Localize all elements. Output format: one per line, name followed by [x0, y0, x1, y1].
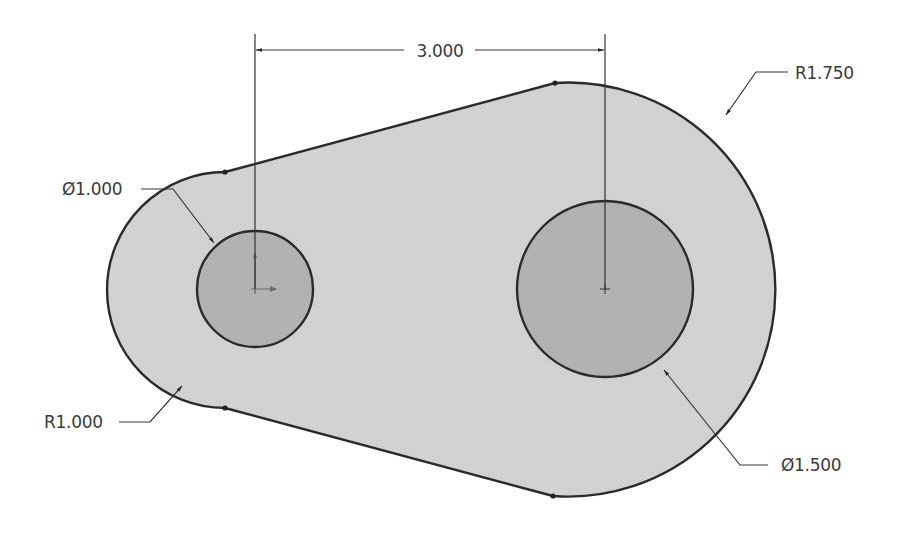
dimension-small-radius[interactable]: R1.000	[44, 386, 182, 432]
tangent-point-upper-left	[222, 169, 227, 174]
tangent-point-upper-right	[552, 80, 557, 85]
leader-line	[726, 72, 788, 115]
tangent-point-lower-left	[222, 405, 227, 410]
dimension-label-r1750: R1.750	[795, 63, 854, 83]
tangent-point-lower-right	[550, 493, 555, 498]
dimension-label-3000: 3.000	[416, 41, 463, 61]
dimension-label-d1000: Ø1.000	[62, 179, 122, 199]
dimension-label-d1500: Ø1.500	[781, 455, 841, 475]
dimension-large-radius[interactable]: R1.750	[726, 63, 854, 115]
sketch-canvas: 3.000 R1.750 Ø1.000 R1.000 Ø1.500	[0, 0, 910, 533]
dimension-label-r1000: R1.000	[44, 412, 103, 432]
